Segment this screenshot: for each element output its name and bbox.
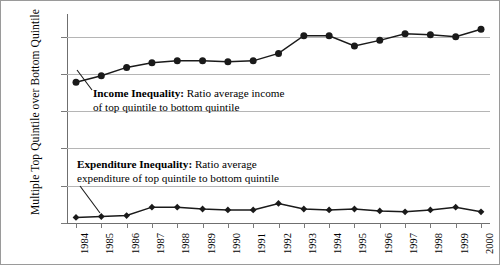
data-point-marker-circle	[427, 31, 434, 38]
x-axis-tick-label: 1996	[384, 233, 395, 254]
data-point-marker-diamond	[452, 204, 459, 211]
plot-area: 3.55.57.59.511.513.5 1984198519861987198…	[67, 18, 490, 223]
data-series-layer	[67, 18, 490, 224]
x-axis-tick-label: 1985	[105, 233, 116, 254]
x-axis-tick-label: 1999	[460, 233, 471, 254]
y-axis-title: Multiple Top Quintile over Bottom Quinti…	[29, 0, 41, 232]
data-point-marker-diamond	[98, 213, 105, 220]
data-point-marker-diamond	[300, 206, 307, 213]
data-point-marker-diamond	[174, 204, 181, 211]
data-point-marker-circle	[224, 58, 231, 65]
chart-figure: Multiple Top Quintile over Bottom Quinti…	[0, 0, 501, 266]
data-point-marker-circle	[275, 50, 282, 57]
data-point-marker-diamond	[427, 207, 434, 214]
x-axis-tick-label: 1994	[333, 233, 344, 254]
income-annotation-line2: of top quintile to bottom quintile	[93, 100, 284, 114]
x-axis-tick-label: 1995	[358, 233, 369, 254]
series-income-inequality	[73, 26, 485, 86]
expenditure-annotation-line1: Expenditure Inequality: Ratio average	[77, 157, 279, 171]
income-annotation-line1-rest: Ratio average income	[184, 87, 284, 99]
data-point-marker-circle	[478, 26, 485, 33]
expenditure-inequality-annotation: Expenditure Inequality: Ratio average ex…	[77, 157, 279, 186]
x-axis-tick-label: 1988	[181, 233, 192, 254]
data-point-marker-circle	[452, 33, 459, 40]
data-point-marker-circle	[376, 37, 383, 44]
x-axis-tick-label: 1989	[207, 233, 218, 254]
data-point-marker-diamond	[402, 208, 409, 215]
income-annotation-line1: Income Inequality: Ratio average income	[93, 86, 284, 100]
data-point-marker-circle	[174, 57, 181, 64]
x-axis-tick-label: 1997	[409, 233, 420, 254]
data-point-marker-circle	[402, 30, 409, 37]
data-point-marker-circle	[98, 72, 105, 79]
x-axis-tick-label: 1998	[434, 233, 445, 254]
x-axis-tick-label: 1992	[283, 233, 294, 254]
income-inequality-annotation: Income Inequality: Ratio average income …	[93, 86, 284, 115]
x-axis-tick-label: 2000	[485, 233, 496, 254]
x-axis-tick-label: 1986	[131, 233, 142, 254]
x-axis-tick-label: 1993	[308, 233, 319, 254]
x-axis-tick-label: 1990	[232, 233, 243, 254]
data-point-marker-diamond	[224, 207, 231, 214]
x-axis-tick-label: 1984	[80, 233, 91, 254]
data-point-marker-circle	[300, 32, 307, 39]
data-point-marker-circle	[250, 57, 257, 64]
expenditure-annotation-label: Expenditure Inequality:	[77, 158, 192, 170]
data-point-marker-diamond	[199, 206, 206, 213]
data-point-marker-diamond	[376, 207, 383, 214]
data-point-marker-diamond	[326, 207, 333, 214]
data-point-marker-diamond	[250, 207, 257, 214]
data-point-marker-circle	[326, 32, 333, 39]
data-point-marker-circle	[148, 59, 155, 66]
expenditure-annotation-line1-rest: Ratio average	[192, 158, 257, 170]
data-point-marker-diamond	[73, 214, 80, 221]
data-point-marker-diamond	[123, 212, 130, 219]
x-axis-tick-label: 1991	[257, 233, 268, 254]
data-point-marker-circle	[73, 79, 80, 86]
series-expenditure-inequality	[73, 200, 485, 221]
data-point-marker-diamond	[275, 200, 282, 207]
data-point-marker-diamond	[149, 204, 156, 211]
data-point-marker-diamond	[351, 206, 358, 213]
data-point-marker-circle	[351, 42, 358, 49]
data-point-marker-circle	[123, 64, 130, 71]
data-point-marker-diamond	[478, 208, 485, 215]
data-point-marker-circle	[199, 57, 206, 64]
expenditure-annotation-line2: expenditure of top quintile to bottom qu…	[77, 171, 279, 185]
x-axis-tick-label: 1987	[156, 233, 167, 254]
income-annotation-label: Income Inequality:	[93, 87, 184, 99]
